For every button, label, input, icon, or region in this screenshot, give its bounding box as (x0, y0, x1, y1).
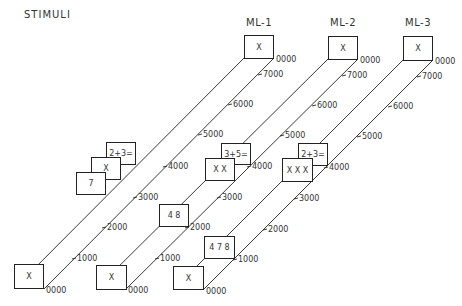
time-tick-label: 1000 (77, 254, 97, 263)
tick-mark (185, 227, 189, 228)
stimulus-box: 4 7 8 (204, 236, 235, 259)
time-tick-label: 0000 (276, 55, 296, 64)
time-tick-label: 5000 (203, 130, 223, 139)
stimuli-title: STIMULI (24, 9, 71, 20)
tick-mark (324, 167, 328, 168)
tick-mark (163, 166, 167, 167)
time-tick-label: 5000 (362, 132, 382, 141)
stimulus-box: X (96, 265, 127, 290)
stimulus-box: X (173, 266, 204, 290)
stimulus-box: 4 8 (159, 204, 189, 227)
tick-mark (247, 166, 251, 167)
stimulus-box: X (14, 264, 44, 289)
time-tick-label: 7000 (422, 72, 442, 81)
time-tick-label: 1000 (238, 255, 258, 264)
column-title: ML-1 (246, 17, 272, 28)
stimulus-box: 7 (76, 172, 106, 195)
stimulus-box: X (403, 36, 433, 61)
time-tick-label: 3000 (222, 193, 242, 202)
tick-mark (312, 105, 316, 106)
time-tick-label: 5000 (285, 131, 305, 140)
time-tick-label: 2000 (190, 223, 210, 232)
tick-mark (217, 197, 221, 198)
time-tick-label: 7000 (347, 71, 367, 80)
time-tick-label: 3000 (138, 193, 158, 202)
time-tick-label: 0000 (206, 287, 226, 296)
time-tick-label: 4000 (168, 162, 188, 171)
time-tick-label: 2000 (107, 223, 127, 232)
tick-mark (388, 106, 392, 107)
time-tick-label: 7000 (263, 70, 283, 79)
column-title: ML-3 (405, 17, 431, 28)
tick-mark (72, 258, 76, 259)
tick-mark (155, 258, 159, 259)
stimulus-box: X X (205, 158, 235, 181)
time-tick-label: 0000 (128, 286, 148, 295)
time-tick-label: 0000 (360, 56, 380, 65)
stimulus-box: X (244, 35, 274, 59)
time-tick-label: 6000 (233, 100, 253, 109)
tick-mark (417, 76, 421, 77)
tick-mark (342, 75, 346, 76)
time-tick-label: 2000 (268, 225, 288, 234)
time-tick-label: 1000 (160, 254, 180, 263)
time-tick-label: 4000 (329, 163, 349, 172)
stimulus-box: X (328, 36, 358, 60)
time-tick-label: 0000 (435, 57, 455, 66)
tick-mark (357, 136, 361, 137)
column-title: ML-2 (330, 17, 356, 28)
tick-mark (258, 74, 262, 75)
tick-mark (133, 197, 137, 198)
memory-load-diagram: STIMULI ML-1 000070006000500040003000200… (0, 0, 462, 306)
time-tick-label: 0000 (46, 286, 66, 295)
stimulus-box: X X X (282, 158, 313, 182)
time-tick-label: 6000 (393, 102, 413, 111)
time-tick-label: 4000 (252, 162, 272, 171)
time-tick-label: 6000 (317, 101, 337, 110)
time-tick-label: 3000 (299, 194, 319, 203)
